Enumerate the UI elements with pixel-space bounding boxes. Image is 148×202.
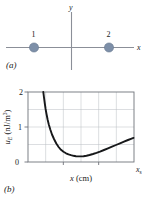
figure-container: y x 1 2 (a) bbox=[0, 0, 148, 202]
panel-a-caption: (a) bbox=[6, 60, 17, 70]
y-axis-title: uE (nJ/m3) bbox=[2, 109, 13, 144]
x-axis-title: x (cm) bbox=[69, 173, 92, 183]
charge-1-label: 1 bbox=[32, 30, 36, 39]
energy-density-curve bbox=[43, 92, 133, 156]
x-end-tick-label: xs bbox=[135, 165, 142, 175]
y-tick-label-2: 2 bbox=[19, 88, 23, 97]
panel-b-caption: (b) bbox=[4, 184, 15, 194]
y-tick-label-1: 1 bbox=[18, 123, 22, 132]
panel-a-diagram: y x 1 2 bbox=[0, 0, 148, 84]
charge-2-label: 2 bbox=[107, 30, 111, 39]
y-tick-label-0: 0 bbox=[15, 158, 19, 167]
charge-1-dot bbox=[29, 43, 38, 52]
x-axis-label: x bbox=[136, 43, 141, 52]
panel-b-chart: 0 1 2 xs uE (nJ/m3) x (cm) bbox=[0, 84, 148, 202]
y-axis-label: y bbox=[68, 3, 73, 12]
charge-2-dot bbox=[104, 43, 113, 52]
y-axis-ticks bbox=[25, 92, 29, 162]
